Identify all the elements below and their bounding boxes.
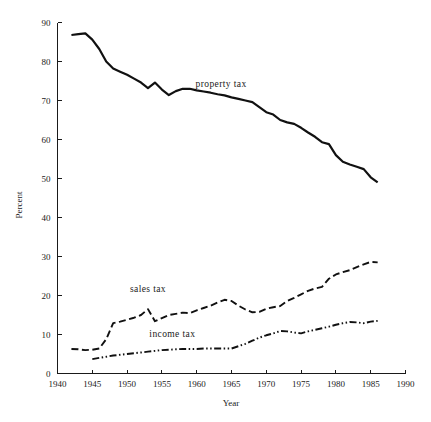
x-tick-label: 1945 (83, 379, 102, 389)
y-tick-label: 20 (42, 291, 52, 301)
x-tick-label: 1980 (327, 379, 346, 389)
x-axis-title: Year (223, 398, 240, 408)
x-tick-label: 1985 (362, 379, 381, 389)
x-tick-label: 1965 (223, 379, 242, 389)
tax-revenue-line-chart: 0102030405060708090 19401945195019551960… (0, 0, 431, 422)
x-tick-label: 1940 (49, 379, 68, 389)
y-tick-label: 10 (42, 330, 52, 340)
y-tick-label: 50 (42, 174, 52, 184)
x-tick-label: 1960 (188, 379, 207, 389)
x-tick-label: 1970 (257, 379, 276, 389)
chart-background (0, 0, 431, 422)
y-axis-title: Percent (14, 191, 24, 218)
y-tick-label: 60 (42, 135, 52, 145)
x-tick-label: 1955 (153, 379, 172, 389)
chart-page: 0102030405060708090 19401945195019551960… (0, 0, 431, 422)
x-tick-label: 1990 (397, 379, 416, 389)
series-label-income-tax: income tax (149, 329, 195, 339)
series-label-property-tax: property tax (196, 79, 247, 89)
series-label-sales-tax: sales tax (130, 284, 166, 294)
y-tick-label: 40 (42, 213, 52, 223)
x-tick-label: 1950 (118, 379, 137, 389)
y-tick-label: 30 (42, 252, 52, 262)
y-tick-label: 80 (42, 57, 52, 67)
y-tick-label: 0 (46, 369, 51, 379)
y-tick-label: 90 (42, 18, 52, 28)
y-tick-label: 70 (42, 96, 52, 106)
x-tick-label: 1975 (292, 379, 311, 389)
